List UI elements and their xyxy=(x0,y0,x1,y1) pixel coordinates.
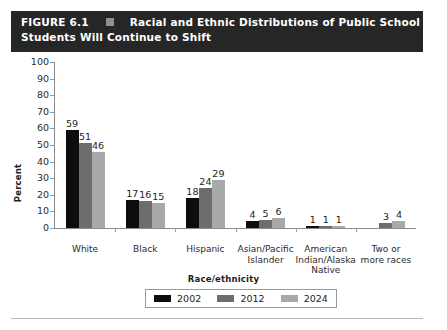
bar[interactable]: 17 xyxy=(126,200,139,228)
x-axis-category-line: Black xyxy=(111,244,179,255)
bar-value-label: 15 xyxy=(152,192,164,202)
bar[interactable]: 24 xyxy=(199,188,212,228)
y-tick-label: 40 xyxy=(19,157,49,167)
bar-value-label: 24 xyxy=(199,177,211,187)
chart-legend: 200220122024 xyxy=(145,289,337,308)
bar-value-label: 6 xyxy=(276,207,282,217)
bar-group: 171615 xyxy=(115,62,175,228)
x-axis-category-line: American xyxy=(292,244,360,255)
bar[interactable]: 3 xyxy=(379,223,392,228)
bar[interactable]: 1 xyxy=(306,226,319,228)
bar[interactable]: 5 xyxy=(259,220,272,228)
square-marker-icon xyxy=(106,18,114,26)
x-axis-category-line: Islander xyxy=(232,255,300,266)
bar-value-label: 59 xyxy=(66,119,78,129)
bar-value-label: 29 xyxy=(212,169,224,179)
y-tick-label: 0 xyxy=(19,223,49,233)
bar[interactable]: 4 xyxy=(246,221,259,228)
figure-title-text-2: Students Will Continue to Shift xyxy=(21,31,413,43)
bar-value-label: 16 xyxy=(139,190,151,200)
plot-area: 595146White171615Black182429Hispanic456A… xyxy=(55,62,416,228)
x-axis-category-label: AmericanIndian/AlaskaNative xyxy=(292,244,360,276)
y-tick-label: 60 xyxy=(19,123,49,133)
bar-group-bars: 182429 xyxy=(186,62,225,228)
bar[interactable]: 29 xyxy=(212,180,225,228)
x-axis-category-label: Two ormore races xyxy=(352,244,420,265)
bar-value-label: 1 xyxy=(336,215,342,225)
bar-group: 456 xyxy=(236,62,296,228)
y-tick-label: 80 xyxy=(19,90,49,100)
bar-value-label: 4 xyxy=(396,210,402,220)
bar-value-label: 18 xyxy=(186,187,198,197)
bar[interactable]: 1 xyxy=(319,226,332,228)
bar-group-bars: 595146 xyxy=(66,62,105,228)
bar[interactable]: 18 xyxy=(186,198,199,228)
x-axis-category-line: White xyxy=(51,244,119,255)
bar-value-label: 5 xyxy=(263,209,269,219)
bottom-divider xyxy=(11,318,423,319)
y-tick-label: 90 xyxy=(19,74,49,84)
x-tick-mark xyxy=(236,228,237,232)
legend-swatch xyxy=(281,295,298,302)
bar[interactable]: 59 xyxy=(66,130,79,228)
bar-value-label: 4 xyxy=(250,210,256,220)
bar[interactable]: 6 xyxy=(272,218,285,228)
bar-value-label: 1 xyxy=(310,215,316,225)
x-tick-mark xyxy=(296,228,297,232)
bar-group-bars: 171615 xyxy=(126,62,165,228)
x-axis-category-label: White xyxy=(51,244,119,255)
figure-number: FIGURE 6.1 xyxy=(21,16,89,28)
bar[interactable]: 51 xyxy=(79,143,92,228)
bar[interactable]: 4 xyxy=(392,221,405,228)
legend-label: 2024 xyxy=(304,293,328,304)
y-tick-label: 50 xyxy=(19,140,49,150)
legend-label: 2012 xyxy=(240,293,264,304)
legend-swatch xyxy=(154,295,171,302)
y-tick-label: 70 xyxy=(19,107,49,117)
bar-value-label: 3 xyxy=(383,212,389,222)
bar-value-label: 46 xyxy=(92,141,104,151)
chart: Percent 1009080706050403020100 595146Whi… xyxy=(0,52,447,292)
x-axis-category-label: Black xyxy=(111,244,179,255)
legend-swatch xyxy=(217,295,234,302)
bar-group: 595146 xyxy=(55,62,115,228)
x-axis-category-line: Indian/Alaska xyxy=(292,255,360,266)
x-tick-mark xyxy=(175,228,176,232)
x-axis-category-label: Hispanic xyxy=(171,244,239,255)
bar-value-label: 1 xyxy=(323,215,329,225)
x-tick-mark xyxy=(115,228,116,232)
legend-label: 2002 xyxy=(177,293,201,304)
bar-value-label: 17 xyxy=(126,189,138,199)
bar[interactable]: 16 xyxy=(139,201,152,228)
y-tick-label: 10 xyxy=(19,206,49,216)
y-tick-label: 100 xyxy=(19,57,49,67)
figure-title-line-1: FIGURE 6.1 Racial and Ethnic Distributio… xyxy=(21,16,413,28)
x-axis-category-line: Asian/Pacific xyxy=(232,244,300,255)
bar-group-bars: 34 xyxy=(366,62,405,228)
bar-group: 34 xyxy=(356,62,416,228)
bar[interactable]: 46 xyxy=(92,152,105,228)
bar[interactable]: 1 xyxy=(332,226,345,228)
x-tick-mark xyxy=(356,228,357,232)
x-axis-title: Race/ethnicity xyxy=(0,274,447,284)
legend-item[interactable]: 2002 xyxy=(154,293,201,304)
bar-value-label: 51 xyxy=(79,132,91,142)
x-axis-category-label: Asian/PacificIslander xyxy=(232,244,300,265)
bar-group-bars: 111 xyxy=(306,62,345,228)
legend-item[interactable]: 2024 xyxy=(281,293,328,304)
figure-title-text-1: Racial and Ethnic Distributions of Publi… xyxy=(130,16,420,28)
bar-group: 182429 xyxy=(175,62,235,228)
bar-group-bars: 456 xyxy=(246,62,285,228)
bar[interactable]: 15 xyxy=(152,203,165,228)
y-tick-label: 20 xyxy=(19,190,49,200)
x-axis-category-line: Hispanic xyxy=(171,244,239,255)
y-tick-label: 30 xyxy=(19,173,49,183)
bar-group: 111 xyxy=(296,62,356,228)
figure-title-bar: FIGURE 6.1 Racial and Ethnic Distributio… xyxy=(11,11,423,52)
x-axis-category-line: more races xyxy=(352,255,420,266)
legend-item[interactable]: 2012 xyxy=(217,293,264,304)
x-axis-category-line: Two or xyxy=(352,244,420,255)
